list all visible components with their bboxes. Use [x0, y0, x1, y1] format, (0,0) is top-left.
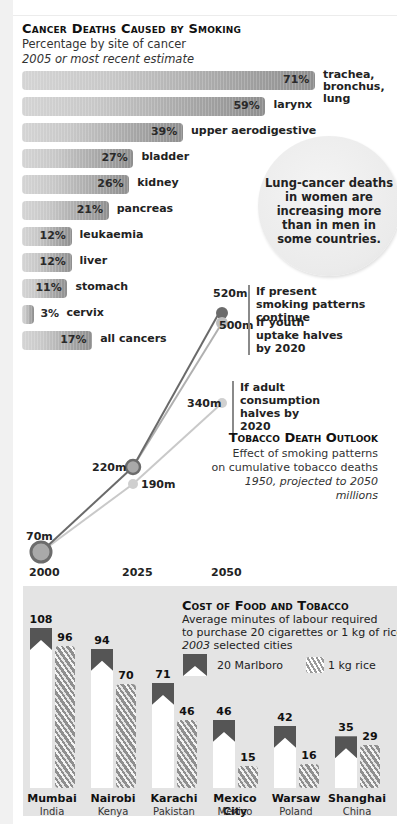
city-name: Shanghai	[326, 792, 388, 805]
legend-marlboro: 20 Marlboro	[183, 654, 283, 676]
food-chart-sub1: Average minutes of labour required	[182, 613, 377, 626]
rice-value: 96	[52, 631, 78, 644]
rice-bar	[55, 646, 75, 788]
outlook-sub3: 1950, projected to 2050	[245, 475, 378, 488]
rice-bar	[238, 766, 258, 788]
food-chart-sub3-rest: selected cities	[210, 639, 292, 652]
food-chart-title: Cost of Food and Tobacco	[182, 598, 349, 613]
country-name: Pakistan	[143, 806, 205, 817]
rice-value: 16	[296, 749, 322, 762]
label-2000-value: 70m	[26, 530, 53, 543]
label-2025-present: 220m	[92, 461, 126, 474]
rice-value: 46	[174, 705, 200, 718]
marlboro-pack-icon	[183, 654, 207, 676]
food-chart-sub3: 2003 selected cities	[182, 639, 292, 652]
marlboro-bar	[91, 649, 113, 788]
marlboro-bar	[335, 736, 357, 788]
point-2025-adult	[128, 479, 138, 489]
rice-value: 29	[357, 730, 383, 743]
label-2025-adult: 190m	[141, 478, 175, 491]
city-name: Karachi	[143, 792, 205, 805]
marlboro-bar	[30, 628, 52, 788]
food-chart-year: 2003	[182, 639, 210, 652]
city-name: Mumbai	[21, 792, 83, 805]
rice-bag-icon	[306, 657, 324, 673]
rice-bar	[177, 720, 197, 788]
country-name: Mexico	[204, 806, 266, 817]
marlboro-value: 71	[150, 668, 176, 681]
outlook-title: Tobacco Death Outlook	[229, 430, 378, 445]
point-2025-present	[126, 460, 140, 474]
marlboro-value: 35	[333, 721, 359, 734]
marlboro-bar	[274, 726, 296, 788]
marlboro-value: 46	[211, 705, 237, 718]
rice-bar	[299, 764, 319, 788]
rice-value: 70	[113, 669, 139, 682]
country-name: Kenya	[82, 806, 144, 817]
city-name: Warsaw	[265, 792, 327, 805]
rice-bar	[360, 745, 380, 788]
year-2025: 2025	[122, 566, 153, 579]
outlook-sub4: millions	[336, 489, 378, 502]
label-2050-present: 520m	[213, 287, 247, 300]
outlook-sub2: on cumulative tobacco deaths	[212, 461, 378, 474]
country-name: India	[21, 806, 83, 817]
marlboro-bar	[152, 683, 174, 788]
legend-marlboro-label: 20 Marlboro	[217, 659, 283, 672]
legend-rice: 1 kg rice	[306, 654, 376, 676]
marlboro-bar	[213, 720, 235, 788]
point-2000	[31, 542, 51, 562]
scenario-youth: If youth uptake halves by 2020	[248, 316, 348, 355]
year-2050: 2050	[211, 566, 242, 579]
city-name: Nairobi	[82, 792, 144, 805]
legend-rice-label: 1 kg rice	[328, 659, 376, 672]
food-chart-sub2: to purchase 20 cigarettes or 1 kg of ric…	[182, 626, 397, 639]
country-name: China	[326, 806, 388, 817]
rice-value: 15	[235, 751, 261, 764]
outlook-sub1: Effect of smoking patterns	[233, 447, 378, 460]
country-name: Poland	[265, 806, 327, 817]
marlboro-value: 108	[28, 613, 54, 626]
marlboro-value: 94	[89, 634, 115, 647]
year-2000: 2000	[29, 566, 60, 579]
marlboro-value: 42	[272, 711, 298, 724]
scenario-adult: If adult consumption halves by 2020	[232, 381, 322, 433]
rice-bar	[116, 684, 136, 788]
label-2050-adult: 340m	[187, 397, 221, 410]
